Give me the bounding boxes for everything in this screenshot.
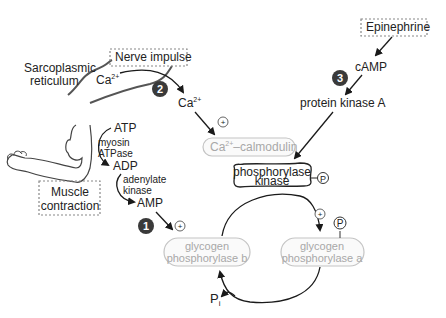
svg-text:+: + (178, 222, 183, 231)
gpa-label-1: glycogen (300, 240, 344, 252)
glycogen-phosphorylase-a-box: glycogen phosphorylase a (281, 231, 364, 266)
gpa-label-2: phosphorylase a (282, 252, 364, 264)
sarcoplasmic-label-1: Sarcoplasmic (24, 61, 96, 75)
step-1-badge: 1 (138, 218, 154, 234)
phosphorylase-kinase-box: phosphorylase kinase (233, 163, 318, 188)
svg-text:+: + (221, 118, 226, 127)
epinephrine-to-camp-arrow (376, 37, 392, 55)
svg-text:2: 2 (157, 83, 163, 95)
step-3-badge: 3 (332, 70, 348, 86)
pka-label: protein kinase A (300, 96, 385, 110)
glycogen-phosphorylase-regulation-diagram: Sarcoplasmic reticulum Ca2+ Nerve impuls… (0, 0, 446, 318)
phosphate-icon-gpa: P (334, 217, 346, 229)
plus-icon: + (218, 117, 228, 127)
ca-calmodulin-box: Ca2+–calmodulin (203, 138, 297, 156)
adp-label: ADP (113, 159, 138, 173)
phk-label-2: kinase (255, 174, 290, 188)
glycogen-phosphorylase-b-box: glycogen phosphorylase b (164, 238, 250, 266)
svg-text:3: 3 (337, 72, 343, 84)
epinephrine-box: Epinephrine (361, 19, 430, 36)
adenylate-label-2: kinase (123, 185, 152, 196)
nerve-impulse-label: Nerve impulse (115, 50, 192, 64)
step-2-badge: 2 (152, 81, 168, 97)
camp-to-pka-arrow (346, 75, 362, 94)
svg-text:+: + (318, 210, 323, 219)
amp-label: AMP (137, 196, 163, 210)
gpb-label-2: phosphorylase b (167, 252, 248, 264)
sarcoplasmic-reticulum: Sarcoplasmic reticulum Ca2+ (24, 60, 172, 103)
ca-calmodulin-label: Ca2+–calmodulin (210, 140, 297, 154)
atp-label: ATP (114, 121, 136, 135)
myosin-label-2: ATPase (98, 148, 133, 159)
muscle-label-1: Muscle (51, 185, 89, 199)
amp-to-gpb-arrow (156, 212, 172, 229)
camp-label: cAMP (355, 60, 387, 74)
sarcoplasmic-label-2: reticulum (30, 74, 79, 88)
phosphate-icon-phk: P (318, 173, 329, 185)
svg-text:1: 1 (143, 220, 149, 232)
plus-icon: + (315, 209, 325, 219)
nerve-impulse-box: Nerve impulse (110, 49, 192, 66)
svg-text:P: P (337, 218, 344, 229)
svg-text:P: P (320, 174, 326, 184)
gpa-to-gpb-arrow (220, 267, 320, 303)
gpb-label-1: glycogen (185, 240, 229, 252)
myosin-label-1: myosin (98, 137, 130, 148)
pka-to-phk-arrow (295, 112, 333, 158)
arm-icon (7, 125, 91, 182)
epinephrine-label: Epinephrine (366, 20, 430, 34)
adenylate-label-1: adenylate (123, 174, 167, 185)
ca-sr-label: Ca2+ (96, 73, 119, 87)
muscle-contraction-box: Muscle contraction (39, 181, 100, 215)
ca-released-label: Ca2+ (178, 96, 201, 110)
pi-label: Pi (210, 291, 221, 308)
gpb-to-gpa-arrow (222, 194, 320, 236)
muscle-label-2: contraction (41, 199, 100, 213)
plus-icon: + (175, 221, 185, 231)
ca-to-calmodulin-arrow (195, 112, 214, 134)
